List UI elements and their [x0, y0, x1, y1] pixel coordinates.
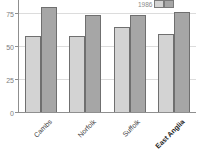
- x-category-label-norfolk: Norfolk: [77, 118, 98, 139]
- y-tick-label-0: 0: [0, 109, 14, 116]
- x-axis-line: [18, 112, 196, 113]
- bar-series2-suffolk: [130, 15, 146, 113]
- bar-group-cambs: Cambs: [25, 0, 57, 113]
- bar-1986-cambs: [25, 36, 41, 113]
- bar-1986-east-anglia: [158, 34, 174, 113]
- grouped-bar-chart: 1986 0255075 CambsNorfolkSuffolkEast Ang…: [0, 0, 200, 159]
- y-tick-label-25: 25: [0, 76, 14, 83]
- bar-group-suffolk: Suffolk: [114, 0, 146, 113]
- plot-area: CambsNorfolkSuffolkEast Anglia: [19, 0, 196, 113]
- bar-1986-suffolk: [114, 27, 130, 113]
- x-category-label-east-anglia: East Anglia: [154, 118, 186, 150]
- bar-series2-east-anglia: [174, 12, 190, 113]
- bar-series2-cambs: [41, 7, 57, 113]
- x-category-label-suffolk: Suffolk: [122, 118, 142, 138]
- bar-group-norfolk: Norfolk: [69, 0, 101, 113]
- bar-group-east-anglia: East Anglia: [158, 0, 190, 113]
- x-category-label-cambs: Cambs: [32, 118, 53, 139]
- bar-series2-norfolk: [85, 15, 101, 113]
- bar-1986-norfolk: [69, 36, 85, 113]
- y-tick-label-75: 75: [0, 10, 14, 17]
- y-tick-label-50: 50: [0, 43, 14, 50]
